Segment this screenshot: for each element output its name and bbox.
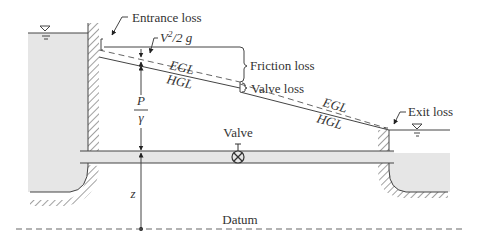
egl-hgl-diagram: Valve Entrance loss V2/2 g P γ z Frictio… — [0, 0, 477, 243]
pressure-head-numerator: P — [136, 93, 145, 108]
elevation-head-label: z — [129, 186, 135, 201]
upstream-reservoir — [28, 23, 99, 206]
friction-loss-label: Friction loss — [250, 58, 315, 73]
velocity-head-label: V2/2 g — [160, 29, 193, 45]
valve-loss-label: Valve loss — [251, 81, 304, 96]
entrance-loss-bracket — [101, 39, 103, 50]
valve-label: Valve — [223, 125, 253, 140]
friction-loss-brace — [240, 47, 247, 82]
velocity-head-leader — [150, 38, 158, 53]
upstream-wall-hatch — [88, 23, 99, 151]
entrance-loss-leader — [112, 17, 128, 35]
pressure-head-denominator: γ — [138, 110, 144, 125]
exit-loss-leader — [394, 112, 406, 124]
entrance-loss-label: Entrance loss — [132, 10, 202, 25]
exit-loss-label: Exit loss — [408, 104, 453, 119]
datum-label: Datum — [222, 212, 257, 227]
valve-icon — [232, 144, 244, 163]
